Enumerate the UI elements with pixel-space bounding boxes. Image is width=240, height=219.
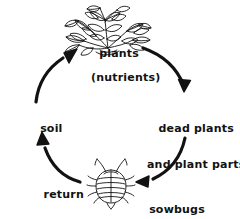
node-label-plants: plants (nutrients) (83, 36, 160, 108)
node-label-soil-line1: soil (40, 122, 62, 135)
arrow-label-return-nutrients-to-soil: return nutrients to soil (6, 165, 84, 219)
node-label-sowbugs-line1: sowbugs (149, 203, 205, 216)
node-label-sowbugs: sowbugs (133, 192, 205, 219)
node-label-plants-line2: (nutrients) (83, 72, 160, 84)
node-label-dead-plants-line1: dead plants (147, 123, 240, 135)
arrow-label-return-line1: return (6, 189, 84, 201)
nutrient-cycle-diagram: plants (nutrients) dead plants and plant… (0, 0, 240, 219)
node-label-dead-plants-line2: and plant parts (147, 159, 240, 171)
node-label-plants-line1: plants (99, 47, 139, 60)
sowbug-illustration (87, 159, 135, 209)
node-label-soil: soil (24, 111, 63, 147)
node-label-dead-plants: dead plants and plant parts (147, 99, 240, 195)
arrow-soil-to-plants (36, 49, 77, 102)
